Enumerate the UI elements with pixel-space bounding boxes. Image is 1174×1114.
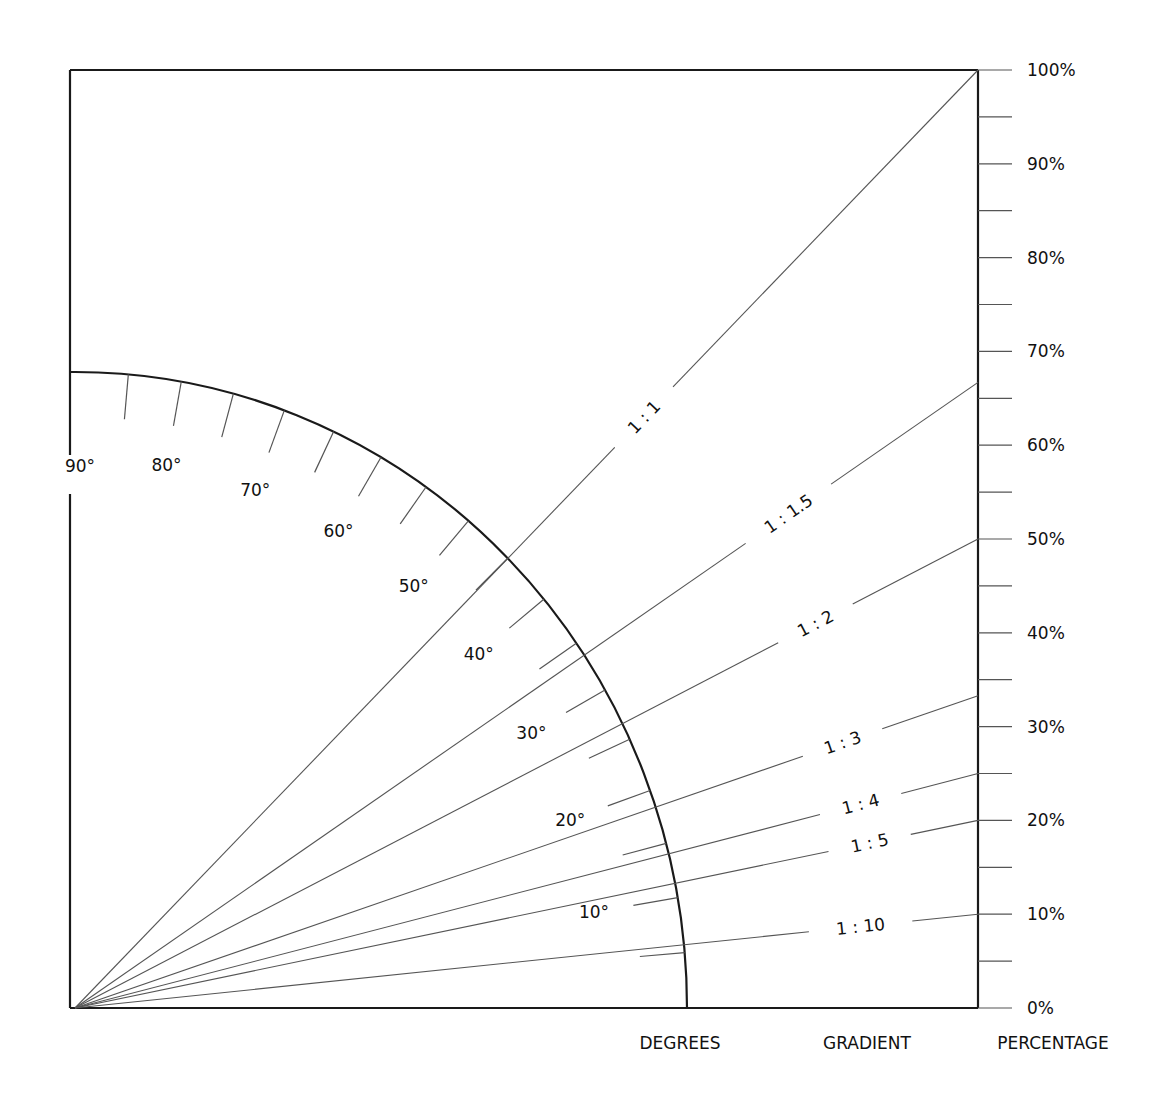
degree-tick xyxy=(633,898,677,906)
degree-tick xyxy=(269,410,284,452)
degree-tick xyxy=(173,382,181,426)
degree-label: 40° xyxy=(464,644,494,664)
axis-title-degrees: DEGREES xyxy=(639,1033,720,1053)
degree-label: 80° xyxy=(151,455,181,475)
percentage-label: 60% xyxy=(1027,435,1065,455)
gradient-label: 1 : 1.5 xyxy=(760,490,816,537)
gradient-line xyxy=(673,70,978,387)
degree-label: 50° xyxy=(399,576,429,596)
gradient-label: 1 : 2 xyxy=(794,606,837,641)
degree-label: 30° xyxy=(516,723,546,743)
gradient-labels: 1 : 11 : 1.51 : 21 : 31 : 41 : 51 : 10 xyxy=(623,396,890,938)
degree-label: 20° xyxy=(555,810,585,830)
gradient-line xyxy=(882,696,978,729)
degree-tick xyxy=(566,690,605,713)
gradient-line xyxy=(853,539,978,604)
degree-scale-labels: 10°20°30°40°50°60°70°80°90° xyxy=(65,455,609,922)
degree-tick xyxy=(623,843,666,855)
slope-diagram: 0%10%20%30%40%50%60%70%80%90%100% 10°20°… xyxy=(0,0,1174,1114)
percentage-label: 100% xyxy=(1027,60,1076,80)
axis-title-gradient: GRADIENT xyxy=(823,1033,911,1053)
percentage-label: 80% xyxy=(1027,248,1065,268)
percentage-scale-labels: 0%10%20%30%40%50%60%70%80%90%100% xyxy=(1027,60,1076,1018)
percentage-label: 10% xyxy=(1027,904,1065,924)
degree-label: 90° xyxy=(65,456,95,476)
percentage-label: 50% xyxy=(1027,529,1065,549)
degree-tick xyxy=(589,739,630,758)
gradient-label: 1 : 10 xyxy=(835,914,886,939)
gradient-line xyxy=(75,815,820,1008)
gradient-label: 1 : 4 xyxy=(840,790,882,819)
gradient-label: 1 : 1 xyxy=(623,396,664,437)
degree-tick xyxy=(400,487,426,524)
gradient-label: 1 : 5 xyxy=(849,829,890,856)
degree-tick xyxy=(439,521,468,555)
degree-tick xyxy=(315,432,334,473)
percentage-scale-ticks xyxy=(978,70,1012,1008)
degree-tick xyxy=(509,599,543,628)
degree-tick xyxy=(124,374,128,419)
percentage-label: 20% xyxy=(1027,810,1065,830)
gradient-label: 1 : 3 xyxy=(821,727,864,758)
degree-label: 70° xyxy=(240,480,270,500)
degree-tick xyxy=(222,394,234,437)
degree-tick xyxy=(359,457,382,496)
gradient-line xyxy=(911,820,978,834)
degree-tick xyxy=(608,790,650,805)
percentage-label: 0% xyxy=(1027,998,1054,1018)
percentage-label: 30% xyxy=(1027,717,1065,737)
gradient-lines xyxy=(75,70,978,1008)
gradient-line xyxy=(912,914,978,921)
percentage-label: 90% xyxy=(1027,154,1065,174)
percentage-label: 70% xyxy=(1027,341,1065,361)
degree-label: 10° xyxy=(579,902,609,922)
gradient-line xyxy=(901,774,978,794)
percentage-label: 40% xyxy=(1027,623,1065,643)
axis-title-percentage: PERCENTAGE xyxy=(997,1033,1109,1053)
degree-label: 60° xyxy=(323,521,353,541)
degree-tick xyxy=(640,953,685,957)
gradient-line xyxy=(831,382,978,484)
